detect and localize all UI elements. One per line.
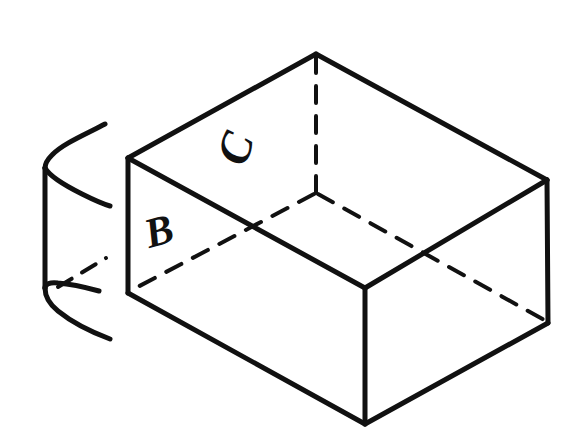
line-drawing: C B	[0, 0, 581, 447]
right-vertical-edge	[547, 180, 548, 323]
figure-canvas: C B	[0, 0, 581, 447]
